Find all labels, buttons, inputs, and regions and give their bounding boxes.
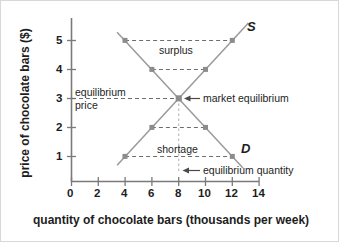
equilibrium-quantity-label: equilibrium quantity bbox=[203, 165, 293, 177]
supply-point-10-4 bbox=[203, 67, 208, 72]
shortage-label: shortage bbox=[157, 144, 198, 156]
market-equilibrium-arrow-head bbox=[184, 96, 191, 102]
x-tick-label-2: 2 bbox=[94, 187, 100, 200]
x-tick-label-12: 12 bbox=[225, 187, 238, 200]
y-axis-title: price of chocolate bars ($) bbox=[18, 28, 32, 177]
y-tick-label-2: 2 bbox=[56, 121, 62, 134]
demand-point-4-5 bbox=[123, 38, 128, 43]
supply-point-12-5 bbox=[230, 38, 235, 43]
market-equilibrium-marker bbox=[176, 95, 182, 101]
market-equilibrium-arrow bbox=[184, 96, 200, 102]
demand-curve-label: D bbox=[241, 142, 250, 157]
y-tick-label-3: 3 bbox=[56, 92, 62, 105]
x-axis-title: quantity of chocolate bars (thousands pe… bbox=[33, 214, 309, 227]
x-tick-label-8: 8 bbox=[175, 187, 181, 200]
x-tick-label-14: 14 bbox=[252, 187, 265, 200]
supply-demand-chart-figure: 5 4 3 2 1 0 2 4 6 8 10 12 14 S D surplus… bbox=[0, 0, 339, 242]
supply-point-4-1 bbox=[123, 154, 128, 159]
equilibrium-quantity-arrow-head bbox=[183, 168, 190, 174]
surplus-label: surplus bbox=[159, 45, 193, 57]
market-equilibrium-label: market equilibrium bbox=[203, 93, 289, 105]
demand-point-6-4 bbox=[149, 67, 154, 72]
y-tick-label-4: 4 bbox=[56, 63, 62, 76]
chart-canvas bbox=[1, 1, 339, 242]
y-tick-label-5: 5 bbox=[56, 34, 62, 47]
supply-curve-label: S bbox=[247, 20, 256, 35]
x-tick-label-4: 4 bbox=[121, 187, 127, 200]
y-axis-title-wrapper: price of chocolate bars ($) bbox=[15, 18, 33, 188]
demand-point-12-1 bbox=[230, 154, 235, 159]
equilibrium-quantity-arrow bbox=[183, 168, 201, 174]
equilibrium-price-label-line1: equilibrium bbox=[75, 87, 126, 99]
x-tick-label-0: 0 bbox=[67, 187, 73, 200]
y-tick-label-1: 1 bbox=[56, 150, 62, 163]
x-tick-label-10: 10 bbox=[198, 187, 211, 200]
x-tick-label-6: 6 bbox=[148, 187, 154, 200]
supply-point-6-2 bbox=[149, 125, 154, 130]
demand-point-10-2 bbox=[203, 125, 208, 130]
equilibrium-price-label-line2: price bbox=[75, 100, 98, 112]
